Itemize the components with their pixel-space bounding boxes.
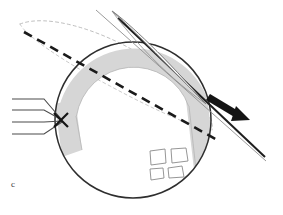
surface-patch — [150, 168, 164, 180]
diagram-canvas — [0, 0, 283, 215]
surface-patch — [150, 149, 166, 165]
figure-root: c — [0, 0, 283, 215]
surface-patch-group — [150, 148, 188, 180]
shaded-arc-band — [55, 49, 215, 170]
surface-patch — [171, 148, 188, 163]
surface-patch — [168, 166, 184, 178]
panel-label: c — [11, 180, 15, 189]
